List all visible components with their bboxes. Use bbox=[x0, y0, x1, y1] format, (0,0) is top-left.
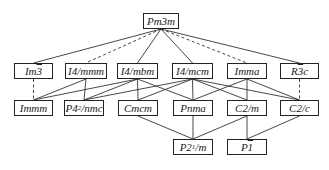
edge-c2m-to-p21m bbox=[193, 116, 247, 139]
node-c2-m: C2/m bbox=[227, 100, 267, 116]
node-cmcm: Cmcm bbox=[118, 100, 158, 116]
node-label-part: I4/mmm bbox=[68, 66, 104, 77]
node-label-part: I4/mcm bbox=[176, 66, 209, 77]
node-label-part: 3 bbox=[37, 66, 43, 77]
node-i4-mcm: I4/mcm bbox=[172, 63, 213, 79]
node-label-part: /m bbox=[195, 142, 206, 153]
edge-i4mmm-to-immm bbox=[34, 79, 87, 100]
node-label-part: Pnma bbox=[180, 103, 206, 114]
node-label-part: P bbox=[241, 142, 248, 153]
node-label-part: P4 bbox=[65, 103, 77, 114]
edge-imma-to-c2c bbox=[247, 79, 300, 100]
node-label-part: C2/c bbox=[289, 103, 310, 114]
edge-cmcm-to-p21m bbox=[138, 116, 193, 139]
node-label-part: I4/mbm bbox=[121, 66, 155, 77]
space-group-hierarchy-diagram: Pm3mIm3I4/mmmI4/mbmI4/mcmImmaR3cImmmP42/… bbox=[0, 0, 329, 170]
edge-pm3m-to-i4mcm bbox=[161, 29, 193, 63]
node-label-part: Pm3m bbox=[147, 16, 175, 27]
node-c2-c: C2/c bbox=[280, 100, 319, 116]
edge-pm3m-to-im3 bbox=[34, 29, 162, 63]
node-label-part: C2/m bbox=[235, 103, 259, 114]
node-p21-m: P21/m bbox=[173, 139, 213, 155]
node-label-part: c bbox=[303, 66, 308, 77]
edge-pm3m-to-imma bbox=[161, 29, 247, 63]
node-label-part: R bbox=[291, 66, 298, 77]
node-p-1: P1 bbox=[227, 139, 267, 155]
node-label-part: /nmc bbox=[81, 103, 102, 114]
node-label-part: Im bbox=[25, 66, 37, 77]
edge-c2c-to-p1 bbox=[247, 116, 300, 139]
node-label-part: Cmcm bbox=[124, 103, 152, 114]
node-im-3: Im3 bbox=[14, 63, 53, 79]
edge-i4mbm-to-p42nmc bbox=[84, 79, 138, 100]
edge-pm3m-to-r3c bbox=[161, 29, 300, 63]
node-pnma: Pnma bbox=[173, 100, 213, 116]
node-label-part: Imma bbox=[234, 66, 259, 77]
node-imma: Imma bbox=[227, 63, 267, 79]
edge-i4mcm-to-c2c bbox=[193, 79, 300, 100]
node-i4-mbm: I4/mbm bbox=[117, 63, 158, 79]
node-p42-nmc: P42/nmc bbox=[64, 100, 104, 116]
node-i4-mmm: I4/mmm bbox=[65, 63, 107, 79]
node-r-3c: R3c bbox=[280, 63, 319, 79]
edge-i4mcm-to-pnma bbox=[193, 79, 194, 100]
node-label-part: Immm bbox=[20, 103, 48, 114]
node-pm3m: Pm3m bbox=[143, 13, 179, 29]
node-immm: Immm bbox=[14, 100, 53, 116]
node-label-part: P2 bbox=[180, 142, 192, 153]
node-label-part: 1 bbox=[248, 142, 254, 153]
